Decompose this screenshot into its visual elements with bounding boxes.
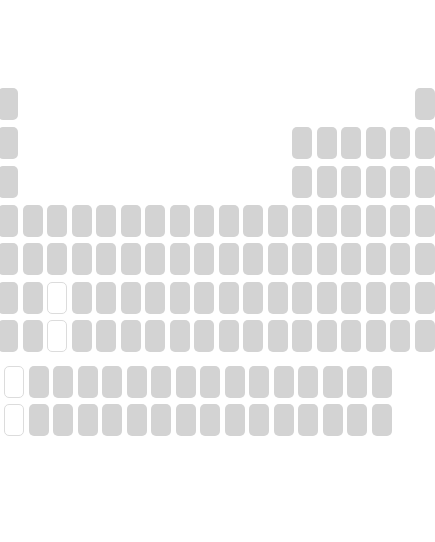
element-tile[interactable] [194,243,214,275]
element-tile[interactable] [0,88,18,120]
element-tile[interactable] [274,366,294,398]
element-tile[interactable] [78,366,98,398]
element-tile[interactable] [390,282,410,314]
element-tile[interactable] [243,205,263,237]
element-tile[interactable] [292,205,312,237]
element-tile[interactable] [415,205,435,237]
element-tile[interactable] [366,282,386,314]
element-tile[interactable] [372,366,392,398]
element-tile[interactable] [341,320,361,352]
element-tile[interactable] [23,205,43,237]
element-tile[interactable] [317,127,337,159]
element-tile[interactable] [225,366,245,398]
element-tile[interactable] [194,282,214,314]
element-tile[interactable] [145,320,165,352]
element-tile[interactable] [390,205,410,237]
element-tile[interactable] [366,205,386,237]
element-tile[interactable] [151,366,171,398]
element-tile[interactable] [317,243,337,275]
element-tile[interactable] [194,320,214,352]
placeholder-tile[interactable] [47,282,67,314]
element-tile[interactable] [268,282,288,314]
element-tile[interactable] [127,404,147,436]
placeholder-tile[interactable] [4,366,24,398]
element-tile[interactable] [341,166,361,198]
element-tile[interactable] [347,366,367,398]
element-tile[interactable] [145,282,165,314]
element-tile[interactable] [78,404,98,436]
placeholder-tile[interactable] [47,320,67,352]
element-tile[interactable] [366,127,386,159]
element-tile[interactable] [415,282,435,314]
element-tile[interactable] [53,404,73,436]
element-tile[interactable] [323,404,343,436]
element-tile[interactable] [170,243,190,275]
element-tile[interactable] [102,404,122,436]
element-tile[interactable] [145,243,165,275]
placeholder-tile[interactable] [4,404,24,436]
element-tile[interactable] [347,404,367,436]
element-tile[interactable] [366,166,386,198]
element-tile[interactable] [121,282,141,314]
element-tile[interactable] [96,205,116,237]
element-tile[interactable] [29,366,49,398]
element-tile[interactable] [390,243,410,275]
element-tile[interactable] [170,205,190,237]
element-tile[interactable] [102,366,122,398]
element-tile[interactable] [415,320,435,352]
element-tile[interactable] [317,282,337,314]
element-tile[interactable] [194,205,214,237]
element-tile[interactable] [292,282,312,314]
element-tile[interactable] [121,243,141,275]
element-tile[interactable] [0,282,18,314]
element-tile[interactable] [390,320,410,352]
element-tile[interactable] [121,320,141,352]
element-tile[interactable] [170,282,190,314]
element-tile[interactable] [127,366,147,398]
element-tile[interactable] [292,127,312,159]
element-tile[interactable] [72,320,92,352]
element-tile[interactable] [96,282,116,314]
element-tile[interactable] [151,404,171,436]
element-tile[interactable] [415,88,435,120]
element-tile[interactable] [317,166,337,198]
element-tile[interactable] [47,205,67,237]
element-tile[interactable] [0,320,18,352]
element-tile[interactable] [243,320,263,352]
element-tile[interactable] [249,404,269,436]
element-tile[interactable] [243,243,263,275]
element-tile[interactable] [0,127,18,159]
element-tile[interactable] [268,205,288,237]
element-tile[interactable] [274,404,294,436]
element-tile[interactable] [145,205,165,237]
element-tile[interactable] [176,404,196,436]
element-tile[interactable] [219,320,239,352]
element-tile[interactable] [249,366,269,398]
element-tile[interactable] [341,127,361,159]
element-tile[interactable] [390,127,410,159]
element-tile[interactable] [47,243,67,275]
element-tile[interactable] [0,166,18,198]
element-tile[interactable] [292,320,312,352]
element-tile[interactable] [372,404,392,436]
element-tile[interactable] [298,366,318,398]
element-tile[interactable] [268,243,288,275]
element-tile[interactable] [323,366,343,398]
element-tile[interactable] [366,320,386,352]
element-tile[interactable] [176,366,196,398]
element-tile[interactable] [415,166,435,198]
element-tile[interactable] [243,282,263,314]
element-tile[interactable] [170,320,190,352]
element-tile[interactable] [219,243,239,275]
element-tile[interactable] [415,243,435,275]
element-tile[interactable] [298,404,318,436]
element-tile[interactable] [268,320,288,352]
element-tile[interactable] [341,282,361,314]
element-tile[interactable] [72,205,92,237]
element-tile[interactable] [23,320,43,352]
element-tile[interactable] [23,243,43,275]
element-tile[interactable] [53,366,73,398]
element-tile[interactable] [29,404,49,436]
element-tile[interactable] [121,205,141,237]
element-tile[interactable] [225,404,245,436]
